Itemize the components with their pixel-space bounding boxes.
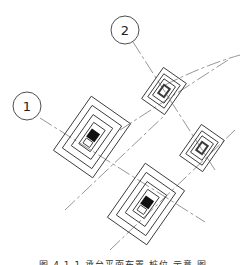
axis-bubble-1: 1 (13, 92, 41, 120)
axis-cross-line-c (120, 60, 228, 130)
axis-line-2 (133, 42, 215, 170)
axis-bubble-2: 2 (111, 16, 139, 44)
axis-cross-line-a (65, 115, 165, 210)
foundation-plan-drawing: 1 2 (0, 0, 246, 265)
pile-cap-large-left (53, 96, 130, 178)
axis-bubble-label: 1 (23, 99, 31, 114)
curved-axis-line (165, 55, 240, 85)
pile-cap-large-bottom (107, 163, 184, 245)
axis-bubble-label: 2 (121, 23, 129, 38)
figure-caption: 图 4.1.1 承台平面布置 桩位 示意 图 (0, 257, 246, 265)
pile-cap-small-right (180, 124, 225, 171)
